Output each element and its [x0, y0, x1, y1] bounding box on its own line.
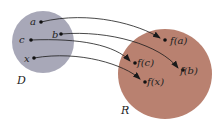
range-set-label: R — [120, 104, 129, 117]
point-b — [59, 32, 63, 36]
point-fa — [163, 38, 167, 42]
label-fx: f(x) — [146, 76, 164, 87]
point-x — [32, 56, 36, 60]
label-fb: f(b) — [179, 65, 198, 76]
point-a — [39, 20, 43, 24]
label-b: b — [52, 29, 58, 40]
label-fc: f(c) — [136, 57, 154, 68]
point-c — [29, 38, 33, 42]
label-c: c — [19, 34, 25, 45]
label-x: x — [24, 53, 30, 64]
domain-set-label: D — [16, 74, 26, 87]
label-a: a — [30, 16, 36, 27]
label-fa: f(a) — [169, 35, 188, 46]
function-mapping-diagram: a b c x f(a) f(b) f(c) f(x) D R — [0, 0, 213, 120]
